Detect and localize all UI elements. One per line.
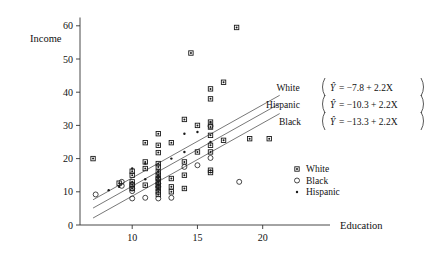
axis-labels-group: IncomeEducation [30, 33, 383, 231]
equation-lhs: Ŷ [330, 116, 337, 127]
data-point [182, 186, 186, 190]
equation-row-white: WhiteŶ= −7.8 + 2.2X [276, 78, 423, 96]
equation-row-hispanic: HispanicŶ= −10.3 + 2.2X [266, 95, 423, 113]
x-axis-title: Education [340, 220, 383, 231]
equation-group-label: White [276, 83, 299, 93]
data-point [157, 181, 159, 183]
data-point [143, 183, 147, 187]
equation-rhs: = −7.8 + 2.2X [339, 83, 393, 93]
equation-lhs: Ŷ [330, 82, 337, 93]
close-paren [421, 78, 424, 96]
data-point [144, 162, 146, 164]
marker-core [210, 98, 212, 100]
marker-core [144, 142, 146, 144]
data-point [247, 136, 251, 140]
marker-core [210, 144, 212, 146]
legend-group: WhiteBlackHispanic [295, 164, 340, 197]
marker-core [223, 81, 225, 83]
data-point [209, 121, 211, 123]
marker-core [210, 172, 212, 174]
marker-core [183, 118, 185, 120]
data-point [169, 176, 173, 180]
close-paren [421, 112, 424, 130]
scatterplot-figure: 0102030405060101520 IncomeEducation Whit… [0, 0, 432, 265]
marker-core [144, 168, 146, 170]
legend-marker-icon [295, 167, 299, 171]
data-point [221, 138, 225, 142]
marker-core [170, 191, 172, 193]
open-paren [323, 95, 326, 113]
data-point [156, 132, 160, 136]
marker-core [157, 193, 159, 195]
marker-core [131, 183, 133, 185]
data-point [237, 179, 242, 184]
data-point [118, 186, 120, 188]
data-point [182, 160, 186, 164]
data-point [267, 136, 271, 140]
legend-label: Hispanic [306, 187, 340, 197]
data-point [208, 97, 212, 101]
data-point [183, 133, 185, 135]
data-point [91, 156, 95, 160]
open-paren [323, 78, 326, 96]
data-point [169, 190, 173, 194]
data-point [196, 131, 198, 133]
data-point [182, 117, 186, 121]
marker-core [210, 88, 212, 90]
marker-core [236, 26, 238, 28]
data-point [157, 187, 159, 189]
marker-core [183, 187, 185, 189]
data-point [208, 155, 213, 160]
marker-core [170, 186, 172, 188]
legend-label: White [306, 164, 329, 174]
close-paren [421, 95, 424, 113]
y-tick-label: 50 [63, 54, 73, 65]
legend-marker-icon [296, 191, 298, 193]
regression-lines-group [93, 95, 280, 218]
marker-core [190, 52, 192, 54]
series-black [93, 124, 242, 201]
equation-lhs: Ŷ [330, 99, 337, 110]
data-point [157, 183, 159, 185]
equation-group-label: Black [279, 117, 301, 127]
y-tick-label: 60 [63, 20, 73, 31]
marker-core [144, 184, 146, 186]
x-tick-label: 10 [127, 232, 137, 243]
data-point [108, 189, 110, 191]
marker-core [210, 126, 212, 128]
marker-core [183, 174, 185, 176]
data-point [143, 195, 148, 200]
data-point [169, 185, 173, 189]
equation-row-black: BlackŶ= −13.3 + 2.2X [279, 112, 424, 130]
x-tick-label: 20 [258, 232, 268, 243]
marker-core [157, 133, 159, 135]
data-point [208, 143, 212, 147]
data-point [169, 195, 174, 200]
plot-canvas: 0102030405060101520 IncomeEducation Whit… [0, 0, 432, 265]
open-paren [323, 112, 326, 130]
marker-core [92, 158, 94, 160]
data-point [143, 140, 147, 144]
data-points-group [91, 25, 272, 201]
series-white [91, 25, 272, 196]
legend-item-black: Black [295, 176, 329, 186]
data-point [182, 173, 186, 177]
legend-label: Black [306, 176, 328, 186]
equation-rhs: = −10.3 + 2.2X [339, 100, 398, 110]
marker-core [131, 170, 133, 172]
data-point [157, 174, 159, 176]
marker-core [170, 178, 172, 180]
legend-item-white: White [295, 164, 329, 174]
data-point [195, 123, 199, 127]
marker-core [170, 142, 172, 144]
marker-core [296, 168, 298, 170]
data-point [144, 178, 146, 180]
data-point [169, 140, 173, 144]
data-point [157, 177, 159, 179]
axes-group: 0102030405060101520 [63, 18, 330, 244]
data-point [131, 167, 133, 169]
marker-core [196, 151, 198, 153]
marker-core [249, 138, 251, 140]
marker-core [196, 124, 198, 126]
y-tick-label: 40 [63, 87, 73, 98]
